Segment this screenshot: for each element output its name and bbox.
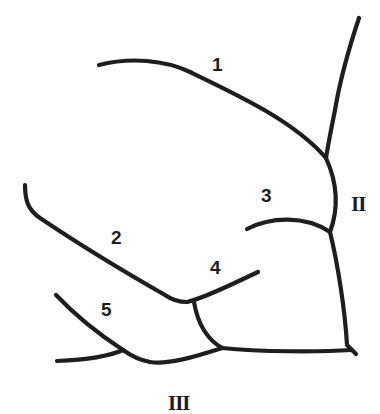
branch-label-2: 2 bbox=[111, 228, 122, 247]
connector-2-4 bbox=[194, 302, 222, 348]
branch-label-4: 4 bbox=[210, 258, 221, 277]
branch-2 bbox=[25, 185, 187, 302]
trunk-III-middle bbox=[123, 348, 222, 363]
trunk-II-middle bbox=[326, 158, 336, 232]
trunk-label-II: II bbox=[351, 194, 365, 215]
branch-label-5: 5 bbox=[101, 300, 112, 319]
trunk-II-lower bbox=[330, 232, 356, 354]
diagram-canvas: 1 2 3 4 5 II III bbox=[0, 0, 380, 414]
branch-5 bbox=[56, 295, 123, 350]
trunk-label-III: III bbox=[168, 393, 190, 414]
branch-1 bbox=[99, 61, 326, 158]
branch-diagram bbox=[0, 0, 380, 414]
branch-3 bbox=[247, 220, 330, 232]
branch-4 bbox=[187, 272, 258, 302]
trunk-III-right bbox=[222, 348, 352, 351]
trunk-II-upper bbox=[326, 18, 359, 158]
branch-label-1: 1 bbox=[212, 55, 223, 74]
trunk-III-left bbox=[57, 350, 123, 361]
branch-label-3: 3 bbox=[261, 186, 272, 205]
